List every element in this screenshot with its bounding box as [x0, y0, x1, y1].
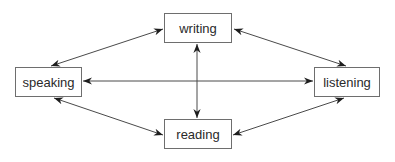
arrow-writing-speaking [51, 29, 163, 66]
node-reading: reading [164, 119, 232, 149]
arrow-listening-reading [233, 98, 344, 135]
node-label: writing [179, 21, 217, 36]
node-label: listening [323, 75, 371, 90]
arrow-writing-listening [234, 29, 346, 66]
skills-diagram: writing speaking listening reading [0, 0, 395, 162]
arrow-speaking-reading [54, 98, 163, 135]
node-listening: listening [314, 67, 380, 97]
node-writing: writing [164, 13, 232, 43]
node-label: speaking [22, 75, 74, 90]
node-label: reading [176, 127, 219, 142]
node-speaking: speaking [15, 67, 82, 97]
